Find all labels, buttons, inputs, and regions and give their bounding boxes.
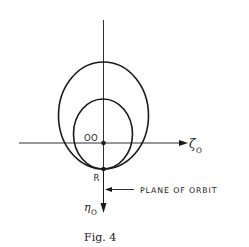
eta-subscript: O xyxy=(91,208,97,217)
eta-label: η xyxy=(84,201,91,214)
inner-ellipse xyxy=(74,99,133,169)
plane-of-orbit-label: PLANE OF ORBIT xyxy=(140,186,217,195)
figure-caption: Fig. 4 xyxy=(84,231,116,244)
plane-of-orbit-arrowhead xyxy=(105,187,112,192)
r-label: R xyxy=(94,173,100,183)
zeta-arrowhead xyxy=(179,140,188,146)
zeta-subscript: O xyxy=(196,146,202,155)
orbit-diagram: OO ‾ R ζ O η O PLANE OF ORBIT Fig. 4 xyxy=(0,0,249,247)
eta-arrowhead xyxy=(101,203,107,213)
origin-label: OO xyxy=(84,133,98,143)
origin-point xyxy=(101,141,105,145)
